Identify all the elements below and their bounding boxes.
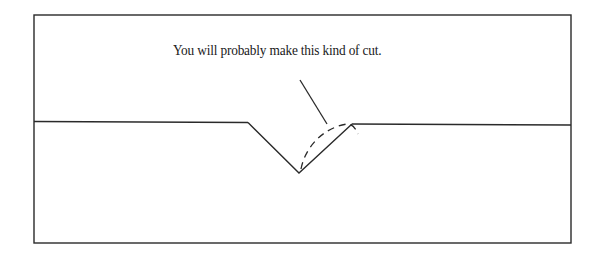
leader-line: [300, 80, 327, 124]
diagram-caption: You will probably make this kind of cut.: [173, 42, 381, 59]
surface-line-right: [352, 124, 571, 125]
dashed-cut-curve: [301, 124, 358, 169]
cut-diagram: You will probably make this kind of cut.: [0, 0, 602, 256]
surface-line-left: [34, 122, 248, 123]
diagram-canvas: [0, 0, 602, 256]
v-cut-profile: [248, 123, 352, 174]
